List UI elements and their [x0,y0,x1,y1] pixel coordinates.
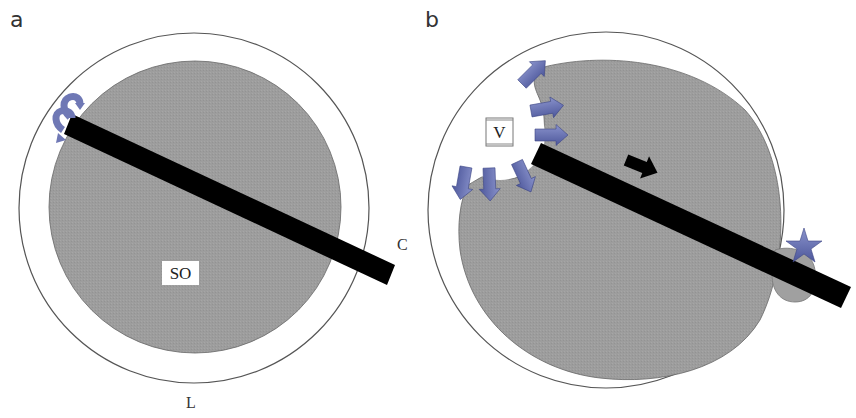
l-label: L [186,394,196,411]
diagram-canvas: a SO C L b [0,0,856,418]
panel-letter-b: b [425,7,439,32]
panel-b: b V [425,7,851,388]
inner-gray-disc-a [49,61,341,353]
so-label: SO [170,264,192,283]
v-label: V [493,123,506,142]
c-label: C [397,236,408,253]
panel-a: a SO C L [10,7,408,411]
panel-letter-a: a [10,7,23,32]
